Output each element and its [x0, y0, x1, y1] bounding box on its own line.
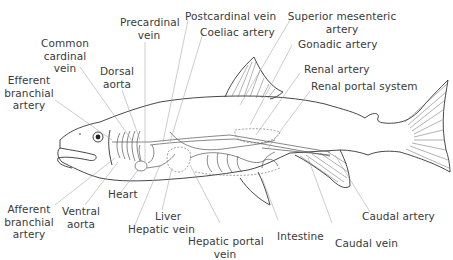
label-caudal-artery: Caudal artery [362, 210, 435, 223]
label-gonadic-artery: Gonadic artery [298, 38, 378, 51]
label-intestine: Intestine [277, 230, 324, 243]
fish-operculum [109, 130, 112, 165]
label-hepatic-portal-vein: Hepatic portal vein [188, 235, 262, 260]
label-coeliac-artery: Coeliac artery [200, 26, 275, 39]
label-afferent-branchial-artery: Afferent branchial artery [4, 203, 54, 241]
label-renal-artery: Renal artery [304, 63, 370, 76]
label-efferent-branchial-artery: Efferent branchial artery [4, 74, 54, 112]
heart-organ [135, 161, 147, 171]
intestine-folds [207, 153, 242, 172]
dorsal-fin-rays [232, 62, 275, 98]
label-precardinal-vein: Precardinal vein [120, 16, 178, 41]
fish-nostril [79, 133, 81, 135]
leader-lines [55, 20, 370, 225]
fish-body-outline [58, 80, 450, 181]
fish-eye-pupil [96, 135, 101, 140]
label-renal-portal-system: Renal portal system [311, 80, 418, 93]
pelvic-fin [240, 172, 270, 205]
common-cardinal-vessel [148, 145, 154, 163]
anal-fin-rays [300, 152, 348, 182]
label-liver: Liver [155, 210, 181, 223]
label-hepatic-vein: Hepatic vein [128, 223, 195, 236]
label-superior-mesenteric-artery: Superior mesenteric artery [286, 10, 398, 35]
label-common-cardinal-vein: Common cardinal vein [38, 37, 92, 75]
label-caudal-vein: Caudal vein [335, 237, 398, 250]
gonad-organ [170, 132, 275, 150]
fish-mouth [58, 148, 97, 168]
label-heart: Heart [108, 188, 138, 201]
label-dorsal-aorta: Dorsal aorta [97, 65, 137, 90]
label-postcardinal-vein: Postcardinal vein [185, 10, 276, 23]
label-ventral-aorta: Ventral aorta [60, 205, 102, 230]
anal-fin [295, 150, 350, 188]
liver-organ [167, 147, 190, 172]
